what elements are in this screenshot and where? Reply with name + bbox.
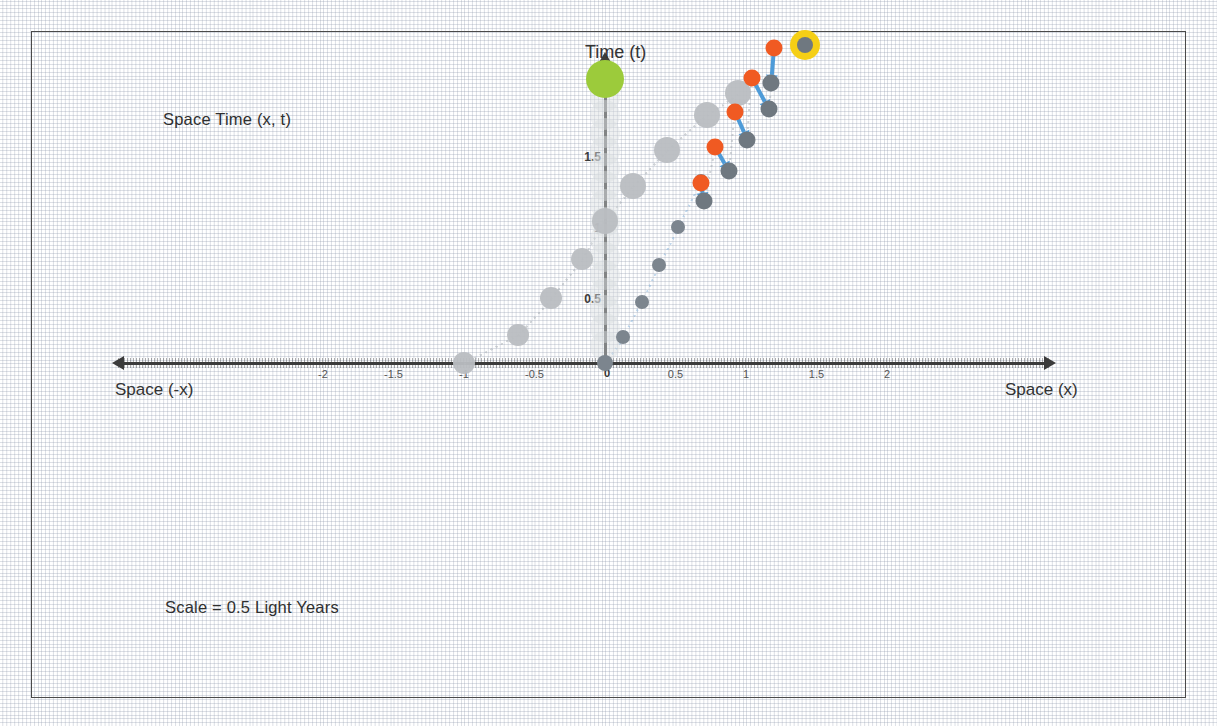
ghost-trail-marker[interactable] (694, 102, 720, 128)
x-tick-label-0p5: 0.5 (668, 368, 683, 380)
x-tick-label-1: 1 (743, 368, 749, 380)
x-tick-label-neg0p5: -0.5 (525, 368, 544, 380)
photon-emission-marker[interactable] (743, 69, 760, 86)
photon-reception-marker[interactable] (739, 132, 756, 149)
ghost-trail-marker[interactable] (540, 287, 562, 309)
x-tick-label-1p5: 1.5 (809, 368, 824, 380)
t-axis-title: Time (t) (585, 42, 646, 63)
spacetime-diagram-canvas: Time (t) Space (x) Space (-x) Space Time… (0, 0, 1217, 726)
x-tick-label-neg1p5: -1.5 (384, 368, 403, 380)
x-axis-tick-dashes (118, 358, 1050, 368)
photon-reception-marker[interactable] (760, 100, 777, 117)
photon-emission-marker[interactable] (692, 174, 709, 191)
ghost-trail-marker[interactable] (620, 173, 646, 199)
x-axis-right-arrow-icon (1044, 356, 1056, 370)
worldline-particle-marker[interactable] (652, 258, 666, 272)
x-tick-label-2: 2 (884, 368, 890, 380)
diagram-caption: Space Time (x, t) (163, 110, 291, 129)
ghost-trail-marker[interactable] (571, 248, 593, 270)
ghost-trail-marker[interactable] (507, 324, 529, 346)
photon-emission-marker[interactable] (726, 103, 743, 120)
worldline-particle-marker[interactable] (616, 330, 630, 344)
emitter-marker-green[interactable] (586, 60, 624, 98)
x-axis-negative-title: Space (-x) (115, 380, 193, 400)
photon-reception-marker[interactable] (695, 193, 712, 210)
scale-note: Scale = 0.5 Light Years (165, 598, 339, 617)
worldline-particle-marker[interactable] (635, 295, 649, 309)
ghost-trail-marker[interactable] (592, 208, 618, 234)
x-axis-positive-title: Space (x) (1005, 380, 1078, 400)
photon-emission-marker[interactable] (766, 39, 783, 56)
photon-reception-marker[interactable] (763, 75, 780, 92)
x-tick-label-neg2: -2 (318, 368, 328, 380)
ghost-trail-marker[interactable] (453, 352, 475, 374)
photon-emission-marker[interactable] (706, 139, 723, 156)
x-axis-left-arrow-icon (112, 356, 124, 370)
worldline-particle-marker[interactable] (671, 220, 685, 234)
ghost-trail-marker[interactable] (654, 137, 680, 163)
photon-reception-marker[interactable] (721, 163, 738, 180)
observer-marker-core[interactable] (797, 37, 813, 53)
worldline-particle-marker[interactable] (597, 355, 613, 371)
